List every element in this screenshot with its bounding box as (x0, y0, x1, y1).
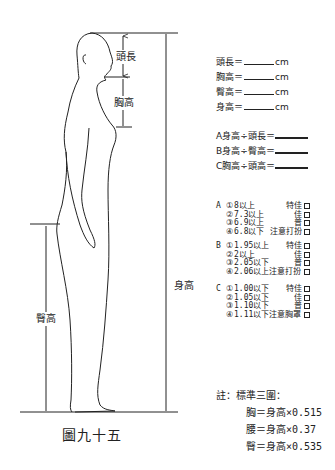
item-grade: 注意打扮 (270, 228, 302, 237)
checkbox-icon[interactable] (304, 286, 310, 292)
item-value: 6.8以下 (234, 228, 264, 237)
ratio-label: B身高÷臀高＝ (216, 146, 275, 156)
field-hip-height: 臀高＝cm (216, 86, 289, 98)
blank-line (275, 130, 308, 139)
blank-line (275, 160, 308, 169)
unit: cm (275, 87, 289, 97)
measure-lines (20, 33, 178, 412)
checkbox-icon[interactable] (304, 269, 310, 275)
blank-line (244, 86, 274, 95)
head-length-label: 頭長 (116, 50, 136, 64)
item-num: ④ (226, 311, 233, 320)
ratio-c: C胸高÷頭高＝ (216, 160, 308, 172)
checkbox-icon[interactable] (304, 220, 310, 226)
hip-height-label: 臀高 (36, 312, 56, 326)
field-chest-height: 胸高＝cm (216, 71, 289, 83)
criteria-b: B①1.95以上特佳 ②2以上佳 ③2.05以下普 ④2.06以上注意打扮 (216, 242, 306, 276)
criteria-key: B (216, 242, 221, 251)
criteria-c: C①1.00以下特佳 ②1.05以下佳 ③1.10以下普 ④1.11以下注意胸罩 (216, 285, 306, 319)
blank-line (244, 101, 274, 110)
field-label: 臀高＝ (216, 87, 243, 97)
body-height-label: 身高 (174, 279, 194, 293)
checkbox-icon[interactable] (304, 229, 310, 235)
item-value: 2.06以上注意打扮 (234, 268, 301, 277)
criteria-key: C (216, 285, 221, 294)
figure-caption: 圖九十五 (62, 424, 122, 444)
field-label: 身高＝ (216, 102, 243, 112)
note-title: 註：標準三圍： (216, 388, 286, 404)
item-value: 1.11以下注意胸罩 (234, 311, 301, 320)
criteria-key: A (216, 202, 221, 211)
field-body-height: 身高＝cm (216, 101, 289, 113)
criteria-a: A①8以上特佳 ②7.3以上佳 ③6.9以上普 ④6.8以下注意打扮 (216, 202, 306, 236)
unit: cm (275, 72, 289, 82)
field-label: 頭長＝ (216, 57, 243, 67)
note-line-waist: 腰＝身高×0.37 (246, 422, 316, 438)
unit: cm (275, 102, 289, 112)
blank-line (244, 71, 274, 80)
checkbox-icon[interactable] (304, 295, 310, 301)
field-label: 胸高＝ (216, 72, 243, 82)
ratio-label: A身高÷頭長＝ (216, 131, 275, 141)
unit: cm (275, 57, 289, 67)
ratio-a: A身高÷頭長＝ (216, 130, 308, 142)
body-silhouette (57, 33, 116, 412)
blank-line (275, 145, 308, 154)
chest-height-label: 胸高 (114, 96, 134, 110)
note-line-hip: 臀＝身高×0.535 (246, 439, 322, 455)
checkbox-icon[interactable] (304, 212, 310, 218)
ratio-label: C胸高÷頭高＝ (216, 161, 275, 171)
item-num: ④ (226, 228, 233, 237)
checkbox-icon[interactable] (304, 312, 310, 318)
blank-line (244, 56, 274, 65)
ratio-b: B身高÷臀高＝ (216, 145, 308, 157)
checkbox-icon[interactable] (304, 243, 310, 249)
checkbox-icon[interactable] (304, 260, 310, 266)
item-num: ④ (226, 268, 233, 277)
checkbox-icon[interactable] (304, 252, 310, 258)
field-head-length: 頭長＝cm (216, 56, 289, 68)
checkbox-icon[interactable] (304, 203, 310, 209)
note-line-chest: 胸＝身高×0.515 (246, 405, 322, 421)
checkbox-icon[interactable] (304, 303, 310, 309)
